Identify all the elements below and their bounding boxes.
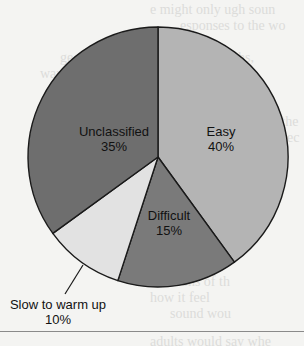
slice-percent: 15% [148,223,190,238]
slice-name: Unclassified [79,124,149,139]
slice-label-slow-to-warm-up: Slow to warm up 10% [10,297,106,327]
slice-name: Easy [207,124,236,139]
horizontal-rule [0,331,304,332]
leader-line [65,265,83,294]
slice-label-unclassified: Unclassified 35% [79,124,149,154]
slice-label-difficult: Difficult 15% [148,208,190,238]
slice-label-easy: Easy 40% [207,124,236,154]
slice-name: Slow to warm up [10,297,106,312]
slice-percent: 40% [207,139,236,154]
pie-chart [0,0,304,346]
slice-percent: 35% [79,139,149,154]
slice-name: Difficult [148,208,190,223]
slice-percent: 10% [10,312,106,327]
